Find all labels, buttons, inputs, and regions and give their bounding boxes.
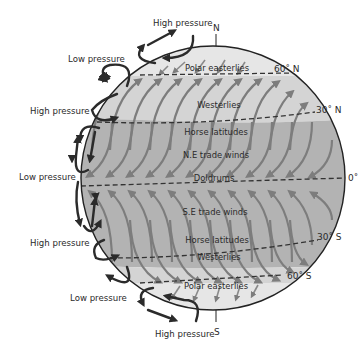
cell-arrow-pad4	[105, 69, 125, 79]
zone-ne-trade-winds: N.E trade winds	[183, 150, 249, 160]
cell-arrow-pad3	[104, 68, 130, 79]
latitude-label-equator: 0˚	[348, 173, 358, 183]
pressure-label-high-4: High pressure	[155, 329, 215, 339]
south-pole-label: S	[214, 327, 220, 337]
pressure-label-low-3: Low pressure	[70, 293, 127, 303]
atmospheric-circulation-diagram: N S 60˚ N 30˚ N 0˚ 30˚ S 60˚ S Polar eas…	[0, 0, 363, 353]
zone-westerlies-south: Westerlies	[197, 252, 240, 262]
cell-arrow-17	[148, 310, 175, 320]
cell-arrow-pad	[104, 70, 128, 80]
pressure-label-high-1: High pressure	[153, 18, 213, 28]
pressure-label-high-3: High pressure	[30, 238, 90, 248]
zone-se-trade-winds: S.E trade winds	[182, 207, 247, 217]
north-pole-label: N	[213, 23, 220, 33]
latitude-label-30n: 30˚ N	[316, 105, 342, 115]
zone-horse-latitudes-south: Horse latitudes	[185, 235, 249, 245]
zone-polar-easterlies-north: Polar easterlies	[185, 63, 249, 73]
zone-doldrums: Doldrums	[194, 173, 235, 183]
latitude-label-30s: 30˚ S	[317, 232, 342, 242]
zone-horse-latitudes-north: Horse latitudes	[184, 127, 248, 137]
cell-arrow-11	[76, 182, 80, 224]
cell-arrow-1	[148, 31, 174, 45]
tropical-band	[70, 118, 360, 268]
pressure-label-high-2: High pressure	[30, 106, 90, 116]
zone-polar-easterlies-south: Polar easterlies	[184, 281, 248, 291]
pressure-label-low-1: Low pressure	[68, 54, 125, 64]
zone-westerlies-north: Westerlies	[197, 100, 240, 110]
pressure-label-low-2: Low pressure	[19, 172, 76, 182]
latitude-label-60n: 60˚ N	[274, 64, 300, 74]
diagram-canvas: N S 60˚ N 30˚ N 0˚ 30˚ S 60˚ S Polar eas…	[0, 0, 363, 353]
latitude-label-60s: 60˚ S	[287, 271, 312, 281]
